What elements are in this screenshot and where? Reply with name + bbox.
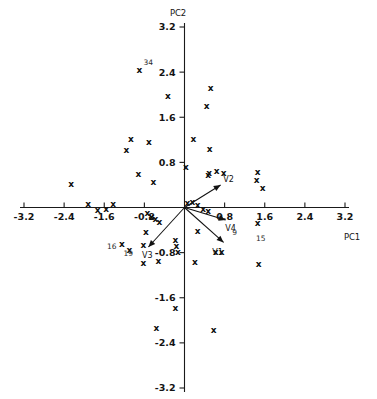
data-point: x [195,226,201,236]
data-point: x [211,325,217,335]
data-point: x [146,137,152,147]
x-tick-label: -2.4 [54,211,75,222]
data-point: x [85,199,91,209]
point-label: 16 [107,242,117,251]
data-point: x [68,179,74,189]
vector-label: V1 [212,248,223,257]
biplot-canvas: -3.2-2.4-1.6-0.80.81.62.43.2 -3.2-2.4-1.… [0,0,377,399]
data-point: x [204,101,210,111]
x-tick-label: 2.4 [296,211,313,222]
y-tick-label: 1.6 [159,112,176,123]
y-tick-label: -1.6 [155,292,176,303]
point-label: 15 [256,234,266,243]
x-axis-title: PC1 [344,232,360,242]
data-point: x [123,145,129,155]
data-point: x [110,199,116,209]
data-point: x [136,65,142,75]
data-point: x [140,240,146,250]
point-label: 9 [232,228,237,237]
y-tick-label: 2.4 [159,67,176,78]
data-point: x [256,259,262,269]
data-point: x [154,323,160,333]
y-tick-label: 3.2 [159,21,176,32]
data-point: x [183,162,189,172]
data-point: x [191,134,197,144]
data-point: x [192,257,198,267]
y-tick-label: -3.2 [155,382,176,393]
data-point: x [214,166,220,176]
data-point: x [207,144,213,154]
data-point: x [173,303,179,313]
data-point: x [143,227,149,237]
data-point: x [135,169,141,179]
y-tick-label: 0.8 [159,157,176,168]
data-point: x [208,83,214,93]
data-point: x [119,239,125,249]
pca-biplot-figure: -3.2-2.4-1.6-0.80.81.62.43.2 -3.2-2.4-1.… [0,0,377,399]
data-point: x [95,205,101,215]
data-point: x [156,256,162,266]
data-point: x [175,247,181,257]
point-label: 34 [144,58,154,67]
data-point: x [157,217,163,227]
point-label: 19 [124,249,134,258]
x-tick-label: 3.2 [337,211,354,222]
data-point: x [128,134,134,144]
data-point: x [255,218,261,228]
x-tick-label: -3.2 [14,211,35,222]
data-point: x [260,183,266,193]
y-axis-title: PC2 [170,8,186,18]
data-point: x [206,168,212,178]
data-point: x [103,204,109,214]
data-point: x [150,177,156,187]
vector-label: V3 [142,251,153,260]
y-tick-label: -2.4 [155,337,176,348]
vector-label: V2 [223,175,234,184]
data-point: x [165,91,171,101]
